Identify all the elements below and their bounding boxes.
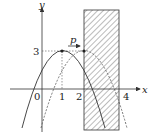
shaded-region [84,10,119,130]
graph-diagram: p y x 0 1 2 4 3 [0,0,155,139]
vertex-point [60,49,63,52]
x-tick-2: 2 [76,91,82,102]
x-axis-label: x [142,84,148,95]
x-tick-1: 1 [59,91,65,102]
y-axis-label: y [38,0,45,10]
shift-label: p [70,34,77,45]
shifted-vertex-point [82,49,85,52]
x-tick-4: 4 [123,91,129,102]
origin-label: 0 [34,91,40,102]
y-tick-3: 3 [33,46,39,57]
